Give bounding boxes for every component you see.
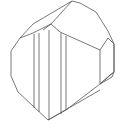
outline (11, 1, 114, 120)
ridge-line (51, 1, 72, 24)
crystal-diagram (0, 0, 123, 125)
small-face-low (100, 72, 114, 84)
crystal-drawing (0, 0, 123, 125)
bottom-edge (48, 90, 100, 120)
